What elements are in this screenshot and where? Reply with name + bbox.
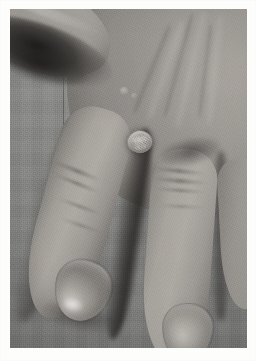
vignette-overlay: [10, 9, 247, 348]
clinical-photograph: [10, 9, 247, 348]
photo-frame: [0, 0, 256, 361]
